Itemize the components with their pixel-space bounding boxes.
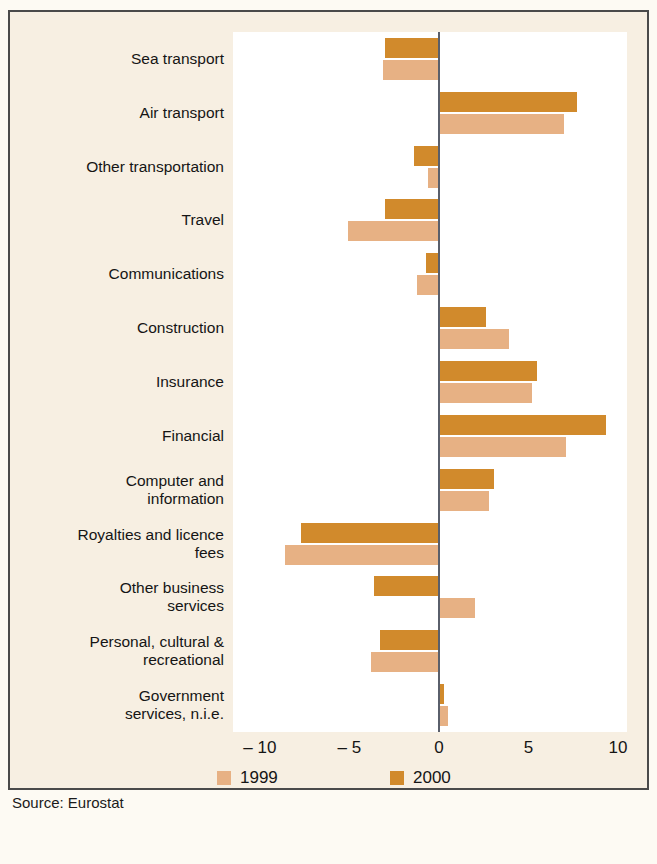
bar-1999 (371, 652, 439, 672)
category-label: Insurance (24, 373, 224, 391)
source-note: Source: Eurostat (12, 794, 124, 811)
category-label: Travel (24, 211, 224, 229)
bar-group (233, 32, 627, 86)
category-label: Computer andinformation (24, 472, 224, 508)
bar-group (233, 247, 627, 301)
category-label-line: Air transport (24, 104, 224, 122)
category-label-line: Other business (24, 579, 224, 597)
chart-panel: Sea transportAir transportOther transpor… (8, 10, 649, 790)
category-axis-labels: Sea transportAir transportOther transpor… (24, 32, 224, 732)
legend-label: 1999 (240, 768, 278, 788)
category-label: Governmentservices, n.i.e. (24, 687, 224, 723)
category-label-line: Royalties and licence (24, 526, 224, 544)
category-label: Other transportation (24, 158, 224, 176)
category-label: Communications (24, 265, 224, 283)
bar-1999 (439, 598, 475, 618)
x-axis-ticks: – 10– 50510 (233, 738, 627, 764)
bar-1999 (439, 114, 564, 134)
bar-2000 (385, 38, 439, 58)
category-label-line: services (24, 597, 224, 615)
bar-1999 (439, 383, 532, 403)
legend-swatch-icon (217, 771, 231, 785)
legend-swatch-icon (390, 771, 404, 785)
bar-2000 (439, 92, 577, 112)
category-label-line: Other transportation (24, 158, 224, 176)
x-tick-label: 0 (434, 738, 443, 758)
category-label-line: Construction (24, 319, 224, 337)
bar-1999 (285, 545, 439, 565)
bar-group (233, 517, 627, 571)
bar-group (233, 301, 627, 355)
x-tick-label: 5 (524, 738, 533, 758)
bar-group (233, 86, 627, 140)
category-label-line: information (24, 490, 224, 508)
category-label: Personal, cultural &recreational (24, 633, 224, 669)
chart-figure: Sea transportAir transportOther transpor… (0, 0, 657, 864)
category-label-line: recreational (24, 651, 224, 669)
bar-group (233, 409, 627, 463)
bar-2000 (374, 576, 438, 596)
category-label-line: Travel (24, 211, 224, 229)
category-label-line: services, n.i.e. (24, 705, 224, 723)
category-label-line: Sea transport (24, 50, 224, 68)
bar-1999 (439, 491, 489, 511)
category-label: Royalties and licencefees (24, 526, 224, 562)
category-label-line: Insurance (24, 373, 224, 391)
bar-1999 (383, 60, 439, 80)
bar-2000 (414, 146, 439, 166)
category-label-line: Computer and (24, 472, 224, 490)
chart-legend: 19992000 (10, 768, 647, 794)
bar-group (233, 194, 627, 248)
bar-2000 (380, 630, 439, 650)
bar-1999 (439, 329, 509, 349)
category-label: Other businessservices (24, 579, 224, 615)
legend-item-1999[interactable]: 1999 (217, 768, 278, 788)
bar-1999 (348, 221, 439, 241)
bar-group (233, 140, 627, 194)
bar-group (233, 463, 627, 517)
plot-area (233, 32, 627, 732)
bar-2000 (439, 307, 486, 327)
bar-group (233, 624, 627, 678)
legend-label: 2000 (413, 768, 451, 788)
x-tick-label: 10 (609, 738, 628, 758)
category-label: Financial (24, 427, 224, 445)
bar-1999 (439, 437, 566, 457)
category-label-line: Government (24, 687, 224, 705)
category-label: Construction (24, 319, 224, 337)
legend-item-2000[interactable]: 2000 (390, 768, 451, 788)
bar-2000 (439, 469, 495, 489)
bar-group (233, 678, 627, 732)
bar-1999 (417, 275, 438, 295)
bar-2000 (301, 523, 439, 543)
category-label: Air transport (24, 104, 224, 122)
bar-2000 (439, 361, 538, 381)
bar-group (233, 570, 627, 624)
bar-2000 (385, 199, 439, 219)
category-label-line: Communications (24, 265, 224, 283)
category-label-line: fees (24, 544, 224, 562)
x-tick-label: – 5 (338, 738, 362, 758)
category-label-line: Financial (24, 427, 224, 445)
bar-2000 (439, 415, 606, 435)
category-label-line: Personal, cultural & (24, 633, 224, 651)
category-label: Sea transport (24, 50, 224, 68)
bar-1999 (439, 706, 448, 726)
x-tick-label: – 10 (243, 738, 276, 758)
bar-rows (233, 32, 627, 732)
zero-axis-line (438, 32, 440, 732)
bar-group (233, 355, 627, 409)
